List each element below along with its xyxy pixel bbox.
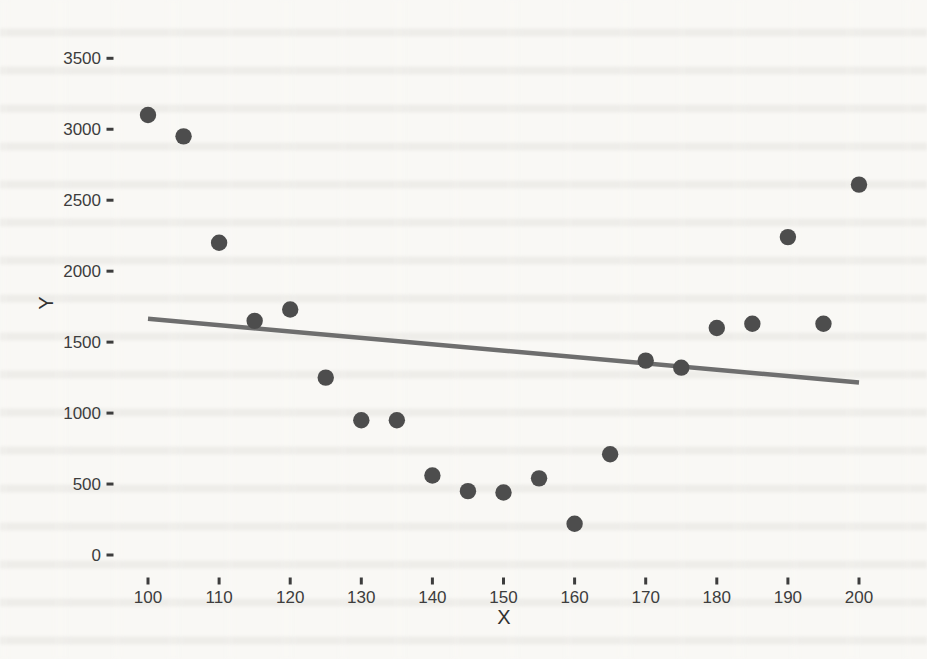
y-tick-label: 500	[73, 475, 101, 494]
x-tick-label: 170	[632, 588, 660, 607]
x-tick-label: 140	[418, 588, 446, 607]
y-tick-label: 1000	[63, 404, 101, 423]
data-point	[780, 229, 796, 245]
data-point	[815, 315, 831, 331]
x-axis: 100110120130140150160170180190200	[134, 578, 873, 608]
data-point	[318, 369, 334, 385]
x-tick-label: 130	[347, 588, 375, 607]
y-axis-title: Y	[35, 296, 57, 309]
data-point	[638, 352, 654, 368]
data-point	[175, 128, 191, 144]
data-point	[673, 359, 689, 375]
data-point	[531, 470, 547, 486]
data-point	[353, 412, 369, 428]
y-tick-label: 2500	[63, 191, 101, 210]
x-tick-label: 110	[206, 588, 233, 607]
y-axis: 0500100015002000250030003500	[63, 49, 113, 565]
data-point	[566, 516, 582, 532]
y-tick-label: 3500	[63, 49, 101, 68]
x-tick-label: 150	[489, 588, 517, 607]
scanned-page: 100110120130140150160170180190200 050010…	[0, 0, 927, 659]
data-point	[424, 467, 440, 483]
x-tick-label: 120	[276, 588, 304, 607]
data-point	[851, 176, 867, 192]
points-layer	[140, 107, 867, 532]
data-point	[282, 301, 298, 317]
y-tick-label: 2000	[63, 262, 101, 281]
data-point	[211, 235, 227, 251]
data-point	[460, 483, 476, 499]
y-tick-label: 1500	[63, 333, 101, 352]
x-tick-label: 100	[134, 588, 162, 607]
data-point	[140, 107, 156, 123]
data-point	[744, 315, 760, 331]
scatter-plot: 100110120130140150160170180190200 050010…	[0, 0, 927, 659]
x-tick-label: 200	[845, 588, 873, 607]
data-point	[246, 313, 262, 329]
x-tick-label: 190	[774, 588, 802, 607]
data-point	[602, 446, 618, 462]
data-point	[495, 484, 511, 500]
x-tick-label: 180	[703, 588, 731, 607]
y-tick-label: 0	[92, 546, 101, 565]
data-point	[389, 412, 405, 428]
x-axis-title: X	[497, 606, 510, 628]
data-point	[709, 320, 725, 336]
x-tick-label: 160	[560, 588, 588, 607]
y-tick-label: 3000	[63, 120, 101, 139]
